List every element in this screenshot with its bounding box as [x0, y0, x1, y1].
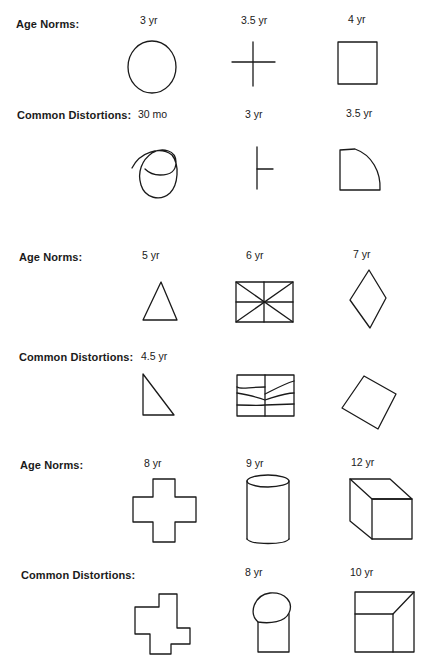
greek-cross-shape-icon — [133, 479, 196, 542]
t-cross-shape-icon — [257, 147, 273, 189]
cross-shape-icon — [232, 42, 275, 86]
wavy-divided-rectangle-shape-icon — [237, 375, 294, 416]
diamond-shape-icon — [350, 270, 386, 328]
offset-cross-shape-icon — [135, 594, 190, 654]
flat-cylinder-shape-icon — [253, 593, 290, 652]
divided-rectangle-shape-icon — [236, 282, 293, 322]
right-triangle-shape-icon — [143, 374, 174, 415]
triangle-shape-icon — [143, 282, 177, 320]
cylinder-shape-icon — [247, 475, 289, 544]
circle-shape-icon — [128, 41, 176, 93]
square-shape-icon — [338, 42, 377, 84]
cube-shape-icon — [350, 479, 412, 539]
scribbled-circle-shape-icon — [132, 150, 177, 198]
shape-drawings — [0, 0, 434, 664]
rounded-square-shape-icon — [340, 149, 380, 190]
flat-cube-shape-icon — [355, 592, 414, 652]
rotated-square-shape-icon — [342, 376, 396, 429]
